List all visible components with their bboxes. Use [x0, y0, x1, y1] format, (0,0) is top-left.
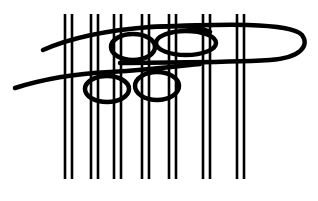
weaving-diagram [0, 0, 318, 201]
